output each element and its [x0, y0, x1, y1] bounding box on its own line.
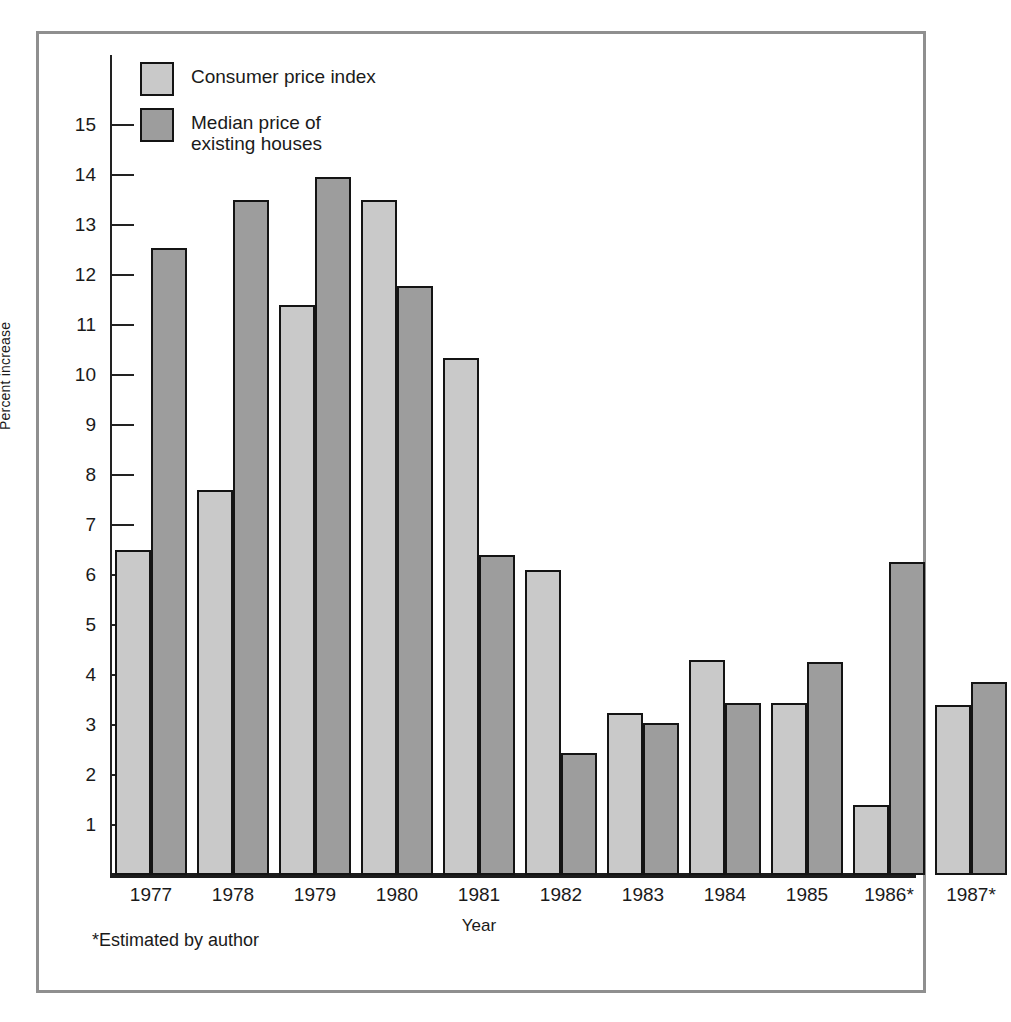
y-tick-label-3: 3 — [52, 715, 96, 734]
legend: Consumer price index Median price of exi… — [140, 62, 376, 166]
y-tick-label-9: 9 — [52, 415, 96, 434]
bar-house-1978 — [233, 200, 269, 875]
footnote: *Estimated by author — [92, 930, 259, 951]
y-tick-label-6: 6 — [52, 565, 96, 584]
bar-cpi-1980 — [361, 200, 397, 875]
bar-cpi-1984 — [689, 660, 725, 875]
bar-cpi-1986 — [853, 805, 889, 875]
y-tick-label-2: 2 — [52, 765, 96, 784]
x-tick-label-1987: 1987* — [923, 884, 1011, 906]
y-tick-8 — [112, 474, 134, 476]
y-tick-label-8: 8 — [52, 465, 96, 484]
bar-house-1981 — [479, 555, 515, 875]
bar-cpi-1979 — [279, 305, 315, 875]
legend-label-house: Median price of existing houses — [191, 108, 322, 154]
y-tick-label-11: 11 — [52, 315, 96, 334]
y-tick-10 — [112, 374, 134, 376]
y-tick-11 — [112, 324, 134, 326]
y-tick-label-5: 5 — [52, 615, 96, 634]
bar-cpi-1977 — [115, 550, 151, 875]
legend-item-cpi: Consumer price index — [140, 62, 376, 96]
y-tick-13 — [112, 224, 134, 226]
legend-item-house: Median price of existing houses — [140, 108, 376, 154]
bar-house-1984 — [725, 703, 761, 876]
y-tick-15 — [112, 124, 134, 126]
bar-house-1987 — [971, 682, 1007, 876]
bar-house-1979 — [315, 177, 351, 876]
legend-swatch-cpi — [140, 62, 174, 96]
y-tick-label-4: 4 — [52, 665, 96, 684]
bar-cpi-1981 — [443, 358, 479, 876]
y-axis-line — [110, 55, 112, 877]
bar-house-1985 — [807, 662, 843, 876]
bar-cpi-1978 — [197, 490, 233, 875]
y-tick-label-10: 10 — [52, 365, 96, 384]
y-tick-label-7: 7 — [52, 515, 96, 534]
bar-cpi-1987 — [935, 705, 971, 875]
bar-cpi-1985 — [771, 703, 807, 876]
bar-house-1986 — [889, 562, 925, 876]
legend-label-cpi: Consumer price index — [191, 62, 376, 87]
y-tick-9 — [112, 424, 134, 426]
y-tick-label-14: 14 — [52, 165, 96, 184]
y-tick-label-13: 13 — [52, 215, 96, 234]
y-tick-14 — [112, 174, 134, 176]
y-tick-label-12: 12 — [52, 265, 96, 284]
y-tick-12 — [112, 274, 134, 276]
bar-house-1980 — [397, 286, 433, 875]
bar-cpi-1983 — [607, 713, 643, 876]
bar-house-1977 — [151, 248, 187, 876]
legend-swatch-house — [140, 108, 174, 142]
y-tick-7 — [112, 524, 134, 526]
y-axis-title: Percent increase — [0, 322, 13, 430]
bar-cpi-1982 — [525, 570, 561, 875]
y-tick-label-15: 15 — [52, 115, 96, 134]
y-tick-label-1: 1 — [52, 815, 96, 834]
bar-house-1982 — [561, 753, 597, 876]
bar-house-1983 — [643, 723, 679, 876]
